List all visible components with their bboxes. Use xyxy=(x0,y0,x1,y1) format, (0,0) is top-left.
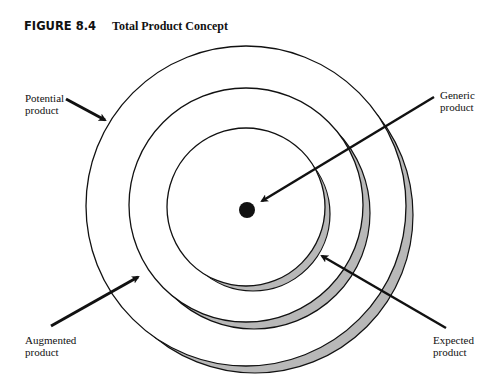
label-generic-product: Generic product xyxy=(440,89,475,113)
total-product-diagram xyxy=(0,0,494,390)
label-augmented-product: Augmented product xyxy=(25,334,76,358)
arrow-potential xyxy=(66,99,105,120)
label-potential-product: Potential product xyxy=(25,92,64,116)
label-expected-product: Expected product xyxy=(433,334,474,358)
core-dot-generic xyxy=(239,202,255,218)
